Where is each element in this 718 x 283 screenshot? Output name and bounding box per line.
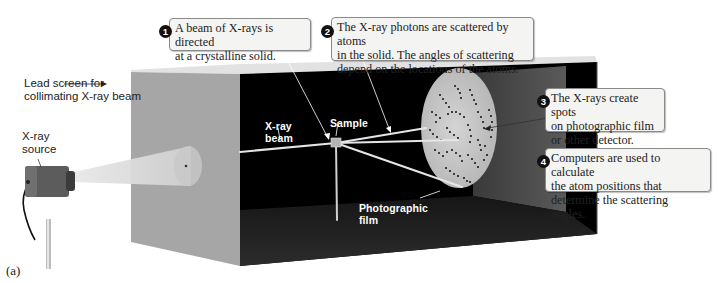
xray-source-label: X-ray source [22, 130, 57, 156]
callout-2-line3: depend on the locations of the atoms. [337, 62, 528, 76]
callout-3-line1: The X-rays create spots [551, 91, 659, 119]
photographic-film-label-line1: Photographic [359, 202, 428, 214]
xray-beam-label: X-ray beam [265, 120, 293, 144]
lead-screen-label: Lead screen for collimating X-ray beam [24, 77, 141, 103]
step-badge-2: 2 [321, 25, 334, 38]
sample-label: Sample [330, 117, 368, 129]
step-badge-4: 4 [537, 155, 550, 168]
figure-caption: (a) [6, 263, 20, 279]
xray-diffraction-diagram: Lead screen for collimating X-ray beam X… [0, 0, 718, 283]
callout-4: Computers are used to calculate the atom… [545, 148, 711, 192]
step-badge-1: 1 [159, 25, 172, 38]
callout-4-line1: Computers are used to calculate [551, 151, 705, 179]
xray-source-label-line2: source [22, 143, 57, 156]
callout-2: The X-ray photons are scattered by atoms… [331, 17, 534, 61]
xray-beam-label-line1: X-ray [265, 120, 293, 132]
callout-2-line1: The X-ray photons are scattered by atoms [337, 20, 528, 48]
photographic-film-label: Photographic film [359, 202, 428, 226]
callout-3: The X-rays create spots on photographic … [545, 88, 665, 132]
callout-1: A beam of X-rays is directed at a crysta… [169, 18, 311, 51]
lead-screen-label-line1: Lead screen for [24, 77, 141, 90]
lead-screen-label-line2: collimating X-ray beam [24, 90, 141, 103]
xray-beam-label-line2: beam [265, 132, 293, 144]
callout-1-line2: at a crystalline solid. [175, 49, 305, 63]
callout-3-line2: on photographic film [551, 119, 659, 133]
photographic-film-label-line2: film [359, 214, 428, 226]
xray-source-label-line1: X-ray [22, 130, 57, 143]
photographic-film [421, 68, 497, 188]
xray-source-device [23, 166, 75, 269]
callout-2-line2: in the solid. The angles of scattering [337, 48, 528, 62]
callout-3-line3: or other detector. [551, 133, 659, 147]
callout-1-line1: A beam of X-rays is directed [175, 21, 305, 49]
callout-4-line3: determine the scattering angles. [551, 193, 705, 221]
sample-crystal [331, 138, 341, 147]
step-badge-3: 3 [537, 95, 550, 108]
callout-4-line2: the atom positions that [551, 179, 705, 193]
